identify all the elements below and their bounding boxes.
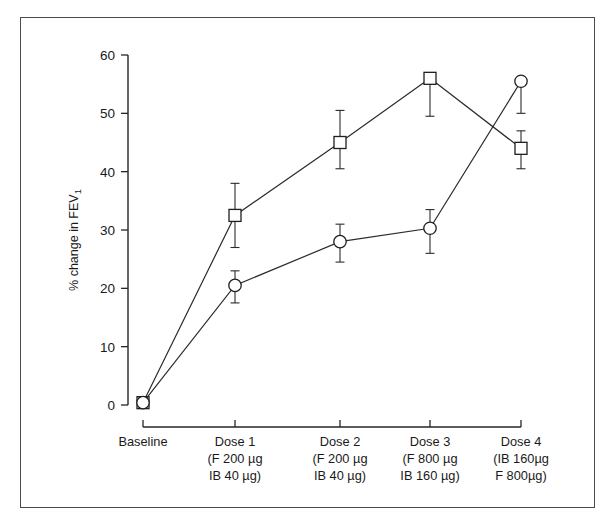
data-series-group [137,72,527,409]
data-point-open-circle-dose-4 [515,75,527,87]
y-axis-title-text: % change in FEV1 [67,189,83,291]
figure-root: 0102030405060 % change in FEV1 BaselineD… [0,0,614,524]
data-point-open-square-dose-1 [229,209,241,221]
x-tick-label-baseline: Baseline [118,434,167,449]
y-tick-label: 30 [100,223,115,238]
y-axis: 0102030405060 [100,48,128,413]
data-point-open-square-dose-4 [515,142,527,154]
x-axis [143,420,521,427]
x-tick-label-dose-3: Dose 3(F 800 µgIB 160 µg) [400,434,459,483]
line-chart: 0102030405060 % change in FEV1 BaselineD… [0,0,614,524]
data-point-open-square-dose-2 [334,137,346,149]
y-tick-label: 20 [100,281,115,296]
series-circle-series [137,75,527,409]
y-tick-label: 50 [100,106,115,121]
y-tick-label: 60 [100,48,115,63]
x-axis-tick-labels: BaselineDose 1(F 200 µgIB 40 µg)Dose 2(F… [118,434,548,483]
data-point-open-circle-dose-1 [229,279,241,291]
x-tick-label-dose-2: Dose 2(F 200 µgIB 40 µg) [312,434,367,483]
data-point-open-circle-dose-3 [424,222,436,234]
y-tick-label: 0 [107,398,115,413]
data-point-open-circle-baseline [137,396,149,408]
data-point-open-square-dose-3 [424,72,436,84]
series-line [143,78,521,402]
series-line [143,81,521,402]
x-tick-label-dose-4: Dose 4(IB 160µgF 800µg) [493,434,549,483]
y-tick-label: 40 [100,165,115,180]
series-square-series [137,72,527,408]
data-point-open-circle-dose-2 [334,235,346,247]
x-tick-label-dose-1: Dose 1(F 200 µgIB 40 µg) [207,434,262,483]
y-tick-label: 10 [100,340,115,355]
y-axis-title: % change in FEV1 [67,189,83,291]
